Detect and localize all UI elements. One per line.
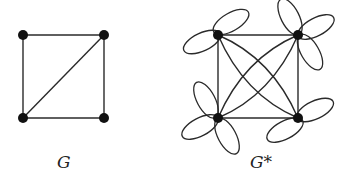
- vertex-gs-bottom-left: [213, 113, 223, 123]
- graph-g-star: [178, 0, 338, 158]
- edge-gs-diag-tr-bl-b: [218, 35, 298, 118]
- edge-gs-diag-tr-bl-a: [218, 35, 298, 118]
- vertex-g-top-left: [18, 30, 28, 40]
- edge-g-diagonal: [23, 35, 104, 118]
- vertex-gs-bottom-right: [293, 113, 303, 123]
- graph-g-star-label: G*: [250, 152, 272, 172]
- graph-g: [18, 30, 109, 123]
- vertex-g-bottom-left: [18, 113, 28, 123]
- edge-gs-diag-tl-br-a: [218, 35, 298, 118]
- vertex-gs-top-right: [293, 30, 303, 40]
- vertex-g-top-right: [99, 30, 109, 40]
- edge-gs-diag-tl-br-b: [218, 35, 298, 118]
- vertex-g-bottom-right: [99, 113, 109, 123]
- vertex-gs-top-left: [213, 30, 223, 40]
- diagram-canvas: [0, 0, 338, 180]
- graph-g-label: G: [57, 152, 71, 172]
